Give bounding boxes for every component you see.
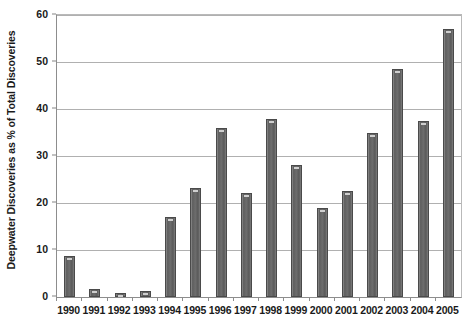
- plot-area: [56, 14, 462, 298]
- x-axis-tick-label: 1990: [56, 304, 81, 324]
- x-axis-tick-labels: 1990199119921993199419951996199719981999…: [56, 304, 460, 324]
- bar[interactable]: [190, 188, 201, 297]
- y-axis-tick-mark: [52, 61, 56, 62]
- bar[interactable]: [216, 128, 227, 297]
- x-axis-tick-slot: [258, 297, 283, 302]
- x-axis-tick-slot: [157, 297, 182, 302]
- bar-slot: [57, 15, 82, 297]
- y-axis-tick-mark: [52, 155, 56, 156]
- x-axis-tick-mark: [81, 297, 82, 301]
- bar-slot: [183, 15, 208, 297]
- y-axis-tick-mark: [52, 202, 56, 203]
- y-axis-tick-mark: [52, 108, 56, 109]
- y-axis-tick-label: 0: [42, 290, 48, 302]
- x-axis-tick-mark: [56, 297, 57, 301]
- bar-chart: Deepwater Discoveries as % of Total Disc…: [0, 0, 468, 335]
- x-axis-tick-mark: [334, 297, 335, 301]
- bar-slot: [158, 15, 183, 297]
- y-axis-tick-label: 10: [36, 243, 48, 255]
- x-axis-tick-mark: [233, 297, 234, 301]
- bar-slot: [310, 15, 335, 297]
- x-axis-tick-slot: [107, 297, 132, 302]
- x-axis-tick-mark: [359, 297, 360, 301]
- bar[interactable]: [165, 217, 176, 297]
- bar[interactable]: [418, 121, 429, 297]
- y-axis-tick-label: 60: [36, 8, 48, 20]
- y-axis-tick-label: 40: [36, 102, 48, 114]
- x-axis-tick-label: 1998: [258, 304, 283, 324]
- bar[interactable]: [241, 193, 252, 297]
- bar-slot: [335, 15, 360, 297]
- y-axis-title-text: Deepwater Discoveries as % of Total Disc…: [5, 30, 17, 269]
- bar[interactable]: [392, 69, 403, 297]
- x-axis-tick-slot: [359, 297, 384, 302]
- bar-slot: [133, 15, 158, 297]
- x-axis-tick-mark: [258, 297, 259, 301]
- bar-slot: [436, 15, 461, 297]
- bar[interactable]: [266, 119, 277, 297]
- x-axis-tick-label: 2001: [334, 304, 359, 324]
- y-axis-tick-label: 30: [36, 149, 48, 161]
- x-axis-tick-label: 1993: [132, 304, 157, 324]
- x-axis-tick-slot: [309, 297, 334, 302]
- bar-slot: [259, 15, 284, 297]
- x-axis-tick-slot: [208, 297, 233, 302]
- y-axis-tick-mark: [52, 296, 56, 297]
- x-axis-tick-label: 2002: [359, 304, 384, 324]
- x-axis-tick-label: 1995: [182, 304, 207, 324]
- x-axis-tick-label: 1999: [283, 304, 308, 324]
- bar-slot: [82, 15, 107, 297]
- x-axis-tick-slot: [182, 297, 207, 302]
- x-axis-tick-slot: [283, 297, 308, 302]
- x-axis-tick-mark: [309, 297, 310, 301]
- x-axis-tick-mark: [157, 297, 158, 301]
- x-axis-tick-slot: [56, 297, 81, 302]
- bar-slot: [209, 15, 234, 297]
- bar[interactable]: [443, 29, 454, 297]
- y-axis-tick-labels: 6050403020100: [22, 0, 52, 300]
- x-axis-tick-label: 2005: [435, 304, 460, 324]
- bar-slot: [385, 15, 410, 297]
- y-axis-title: Deepwater Discoveries as % of Total Disc…: [0, 0, 22, 300]
- x-axis-tick-label: 1994: [157, 304, 182, 324]
- bar-slot: [108, 15, 133, 297]
- x-axis-tick-slot: [384, 297, 409, 302]
- bar[interactable]: [64, 256, 75, 297]
- x-axis-tick-mark: [283, 297, 284, 301]
- x-axis-tick-slot: [410, 297, 435, 302]
- x-axis-tick-mark: [208, 297, 209, 301]
- x-axis-tick-marks: [56, 297, 460, 302]
- x-axis-tick-mark: [107, 297, 108, 301]
- bar-slot: [411, 15, 436, 297]
- bar[interactable]: [342, 191, 353, 297]
- x-axis-tick-slot: [334, 297, 359, 302]
- x-axis-tick-mark: [410, 297, 411, 301]
- x-axis-tick-label: 2003: [384, 304, 409, 324]
- bar-slot: [284, 15, 309, 297]
- y-axis-tick-label: 50: [36, 55, 48, 67]
- x-axis-tick-label: 2004: [410, 304, 435, 324]
- bar[interactable]: [89, 289, 100, 297]
- x-axis-tick-label: 2000: [309, 304, 334, 324]
- x-axis-tick-mark: [435, 297, 436, 301]
- bar[interactable]: [291, 165, 302, 297]
- x-axis-tick-label: 1997: [233, 304, 258, 324]
- x-axis-tick-slot: [81, 297, 106, 302]
- x-axis-tick-slot: [435, 297, 460, 302]
- x-axis-tick-slot: [233, 297, 258, 302]
- x-axis-tick-mark: [132, 297, 133, 301]
- bar-slot: [360, 15, 385, 297]
- x-axis-tick-slot: [132, 297, 157, 302]
- x-axis-tick-label: 1992: [107, 304, 132, 324]
- y-axis-tick-mark: [52, 249, 56, 250]
- bar[interactable]: [317, 208, 328, 297]
- x-axis-tick-mark: [182, 297, 183, 301]
- x-axis-tick-label: 1996: [208, 304, 233, 324]
- bar-slot: [234, 15, 259, 297]
- x-axis-tick-label: 1991: [81, 304, 106, 324]
- y-axis-tick-mark: [52, 14, 56, 15]
- x-axis-tick-mark: [384, 297, 385, 301]
- bar[interactable]: [367, 133, 378, 297]
- y-axis-tick-label: 20: [36, 196, 48, 208]
- bars-layer: [57, 15, 461, 297]
